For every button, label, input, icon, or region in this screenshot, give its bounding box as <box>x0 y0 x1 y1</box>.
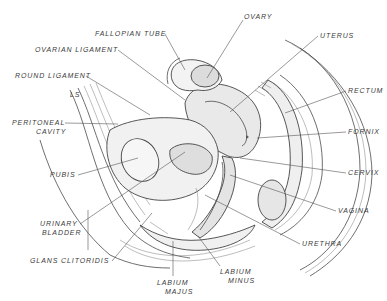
label-cavity: CAVITY <box>36 128 67 135</box>
label-labium-minus-2: MINUS <box>228 277 255 284</box>
signature: LS <box>70 91 80 98</box>
label-round-ligament: ROUND LIGAMENT <box>15 72 91 79</box>
label-bladder: BLADDER <box>42 229 81 236</box>
label-uterus: UTERUS <box>320 32 354 39</box>
label-peritoneal: PERITONEAL <box>12 119 65 126</box>
label-pubis: PUBIS <box>50 171 76 178</box>
label-labium-majus-1: LABIUM <box>157 279 188 286</box>
label-urinary: URINARY <box>40 220 78 227</box>
perineum-shape <box>120 225 255 261</box>
label-urethra: URETHRA <box>302 240 342 247</box>
label-ovary: OVARY <box>244 13 273 20</box>
rectum-shape <box>258 80 302 228</box>
label-vagina: VAGINA <box>338 207 369 214</box>
label-labium-majus-2: MAJUS <box>165 288 193 295</box>
label-labium-minus-1: LABIUM <box>220 268 251 275</box>
ovary-tube-shape <box>167 58 222 91</box>
label-rectum: RECTUM <box>348 87 383 94</box>
label-fornix: FORNIX <box>348 128 380 135</box>
label-fallopian-tube: FALLOPIAN TUBE <box>95 30 166 37</box>
label-cervix: CERVIX <box>348 169 379 176</box>
label-ovarian-ligament: OVARIAN LIGAMENT <box>35 46 118 53</box>
label-glans-clitoridis: GLANS CLITORIDIS <box>30 257 109 264</box>
anatomy-diagram: LS FALLOPIAN TUBE OVARY UTERUS OVARIAN L… <box>0 0 387 301</box>
